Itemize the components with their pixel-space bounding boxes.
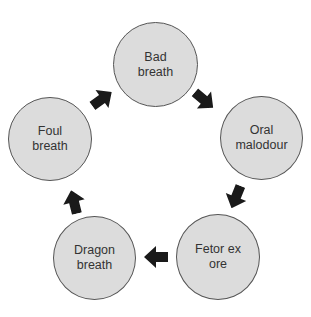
arrow-right-icon <box>144 245 168 269</box>
arrow-right-icon <box>220 181 251 212</box>
node-oral-malodour: Oral malodour <box>220 96 303 180</box>
node-label: Fetor ex ore <box>195 242 241 272</box>
node-label: Oral malodour <box>235 123 287 153</box>
arrow-right-icon <box>85 82 119 116</box>
node-foul-breath: Foul breath <box>8 97 92 181</box>
arrow-right-icon <box>187 83 221 117</box>
node-label: Bad breath <box>138 50 173 80</box>
node-dragon-breath: Dragon breath <box>53 216 136 300</box>
node-fetor-ex-ore: Fetor ex ore <box>176 214 260 300</box>
node-label: Foul breath <box>32 124 67 154</box>
node-label: Dragon breath <box>74 243 115 273</box>
node-bad-breath: Bad breath <box>113 22 198 107</box>
arrow-right-icon <box>59 187 88 216</box>
